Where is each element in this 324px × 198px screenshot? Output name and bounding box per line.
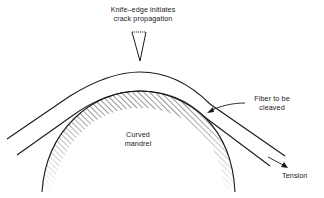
- knife-label-line2: crack propagation: [88, 15, 198, 24]
- fiber-label-line2: cleaved: [240, 104, 304, 113]
- tension-arrow-icon: [268, 157, 288, 168]
- fiber-label: Fiber to be cleaved: [240, 95, 304, 112]
- tension-label: Tension: [282, 172, 322, 181]
- mandrel-label: Curved mandrel: [112, 131, 164, 148]
- knife-edge-label: Knife–edge initiates crack propagation: [88, 6, 198, 23]
- knife-edge-icon: [132, 32, 146, 61]
- diagram-canvas: Knife–edge initiates crack propagation F…: [0, 0, 324, 198]
- mandrel-label-line2: mandrel: [112, 140, 164, 149]
